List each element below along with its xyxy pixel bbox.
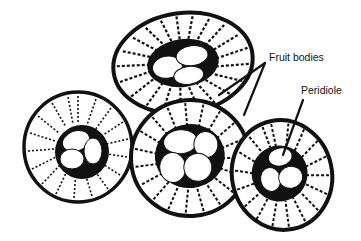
fruit-body-left	[24, 92, 132, 202]
label-peridiole: Peridiole	[301, 85, 342, 96]
label-fruit-bodies: Fruit bodies	[269, 52, 324, 63]
fruit-bodies-illustration	[0, 0, 361, 241]
diagram-canvas: Fruit bodies Peridiole	[0, 0, 361, 241]
